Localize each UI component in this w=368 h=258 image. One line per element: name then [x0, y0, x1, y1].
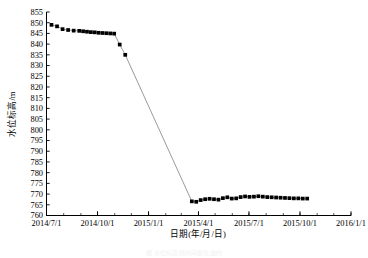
data-point-marker	[108, 32, 112, 36]
data-point-marker	[257, 194, 261, 198]
water-level-line-chart: 7607657707757807857907958008058108158208…	[0, 0, 368, 258]
data-point-marker	[89, 30, 93, 34]
y-tick-label: 825	[30, 72, 43, 81]
data-point-marker	[234, 197, 238, 201]
y-tick-label: 785	[30, 158, 43, 167]
data-point-marker	[123, 53, 127, 57]
y-tick-label: 800	[30, 126, 43, 135]
x-axis-ticks	[47, 211, 352, 215]
data-point-marker	[77, 29, 81, 33]
data-point-marker	[221, 196, 225, 200]
data-point-marker	[72, 29, 76, 33]
data-point-marker	[283, 196, 287, 200]
data-point-marker	[265, 195, 269, 199]
data-point-marker	[194, 200, 198, 204]
data-point-marker	[296, 197, 300, 201]
y-tick-label: 845	[30, 29, 43, 38]
data-point-marker	[199, 198, 203, 202]
series-markers-water-level	[50, 23, 309, 204]
y-tick-label: 780	[30, 169, 43, 178]
data-point-marker	[203, 197, 207, 201]
y-tick-label: 790	[30, 147, 43, 156]
data-point-marker	[50, 23, 54, 27]
x-tick-label: 2015/7/1	[234, 219, 264, 228]
y-tick-label: 855	[30, 8, 43, 17]
figure-container: 7607657707757807857907958008058108158208…	[0, 0, 368, 258]
x-axis-title: 日期(年/月/日)	[170, 228, 226, 239]
y-tick-label: 775	[30, 179, 43, 188]
data-point-marker	[270, 195, 274, 199]
y-tick-label: 810	[30, 104, 43, 113]
data-point-marker	[66, 28, 70, 32]
y-axis-title: 水位标高/m	[6, 91, 17, 136]
x-tick-label: 2014/10/1	[81, 219, 115, 228]
y-tick-label: 805	[30, 115, 43, 124]
data-point-marker	[118, 43, 122, 47]
data-point-marker	[252, 195, 256, 199]
y-tick-label: 820	[30, 83, 43, 92]
axis-spines	[46, 12, 351, 216]
series-line-water-level	[51, 25, 307, 202]
y-tick-label: 835	[30, 51, 43, 60]
figure-caption: 图 水位标高随时间变化曲线	[0, 248, 368, 257]
x-tick-label: 2015/10/1	[283, 219, 317, 228]
data-point-marker	[261, 195, 265, 199]
data-point-marker	[279, 196, 283, 200]
y-tick-label: 765	[30, 201, 43, 210]
y-axis-tick-labels: 7607657707757807857907958008058108158208…	[30, 8, 43, 221]
y-tick-label: 795	[30, 136, 43, 145]
data-point-marker	[208, 197, 212, 201]
data-point-marker	[212, 197, 216, 201]
data-point-marker	[292, 197, 296, 201]
data-point-marker	[101, 31, 105, 35]
data-point-marker	[288, 196, 292, 200]
y-tick-label: 770	[30, 190, 43, 199]
x-axis-tick-labels: 2014/7/12014/10/12015/1/12015/4/12015/7/…	[32, 219, 366, 228]
data-point-marker	[239, 195, 243, 199]
data-point-marker	[305, 197, 309, 201]
y-tick-label: 815	[30, 94, 43, 103]
data-point-marker	[230, 197, 234, 201]
x-tick-label: 2015/1/1	[134, 219, 164, 228]
data-point-marker	[61, 27, 65, 31]
data-point-marker	[301, 197, 305, 201]
data-point-marker	[85, 30, 89, 34]
data-point-marker	[248, 195, 252, 199]
data-point-marker	[190, 200, 194, 204]
x-tick-label: 2016/1/1	[336, 219, 366, 228]
x-tick-label: 2014/7/1	[32, 219, 62, 228]
data-point-marker	[105, 31, 109, 35]
data-point-marker	[217, 198, 221, 202]
data-point-marker	[274, 196, 278, 200]
data-point-marker	[55, 25, 59, 29]
y-tick-label: 840	[30, 40, 43, 49]
data-point-marker	[93, 31, 97, 35]
data-point-marker	[243, 195, 247, 199]
y-tick-label: 850	[30, 19, 43, 28]
data-point-marker	[81, 29, 85, 33]
y-tick-label: 830	[30, 61, 43, 70]
data-point-marker	[225, 195, 229, 199]
data-point-marker	[112, 32, 116, 36]
data-point-marker	[97, 31, 101, 35]
x-tick-label: 2015/4/1	[184, 219, 214, 228]
